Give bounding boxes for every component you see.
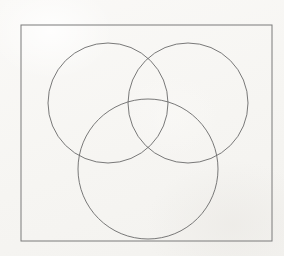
circle-top-right	[128, 43, 248, 163]
circle-bottom	[78, 99, 218, 239]
venn-diagram	[0, 0, 284, 256]
circle-top-left	[48, 43, 168, 163]
figure-canvas	[0, 0, 284, 256]
